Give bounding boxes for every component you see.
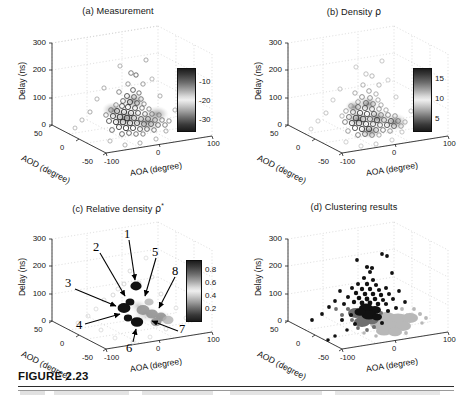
leader-2 bbox=[100, 253, 125, 296]
panel-b-ytick-300: 300 bbox=[262, 38, 282, 47]
panel-b-colorbar-tick-1: 15 bbox=[435, 74, 444, 83]
panel-c-colorbar-tick-1: 0.8 bbox=[205, 265, 216, 274]
panel-b-aodtick-neg50: -50 bbox=[318, 157, 329, 166]
panel-d-aodtick-50: 50 bbox=[270, 325, 278, 334]
panel-a-aoatick-100: 100 bbox=[207, 139, 220, 148]
cluster-annotation-1: 1 bbox=[124, 227, 130, 242]
panel-a-aodtick-50: 50 bbox=[34, 129, 42, 138]
leader-3 bbox=[75, 289, 116, 306]
cluster-annotation-5: 5 bbox=[152, 245, 158, 260]
panel-d-ytick-300: 300 bbox=[262, 234, 282, 243]
panel-b-ytick-200: 200 bbox=[262, 65, 282, 74]
panel-a-ytick-100: 100 bbox=[26, 93, 46, 102]
panel-b-aoatick-neg100: -100 bbox=[340, 157, 355, 166]
panel-a-axes: Delay (ns) 300 200 100 0 50 0 -50 AOD (d… bbox=[0, 0, 236, 196]
caption-text-cutoff bbox=[20, 391, 440, 395]
panel-d-aoatick-neg100: -100 bbox=[340, 353, 355, 362]
panel-d-axes: Delay (ns) 300 200 100 0 50 0 -50 AOD (d… bbox=[236, 196, 472, 392]
caption-rule-thick bbox=[18, 386, 454, 387]
panel-a-ytick-0: 0 bbox=[26, 120, 46, 129]
panel-c-colorbar-gradient bbox=[186, 260, 202, 322]
panel-c-colorbar: 0.8 0.6 0.4 0.2 bbox=[186, 260, 236, 322]
panel-a-ytick-200: 200 bbox=[26, 65, 46, 74]
figure-caption-label: FIGURE 2.23 bbox=[18, 370, 89, 382]
panel-a-colorbar-gradient bbox=[177, 68, 196, 132]
cluster-annotation-6: 6 bbox=[126, 341, 132, 356]
panel-c-aodtick-neg50: -50 bbox=[82, 353, 93, 362]
leader-6 bbox=[133, 329, 136, 342]
cluster-annotation-3: 3 bbox=[65, 276, 71, 291]
panel-a-ytick-300: 300 bbox=[26, 38, 46, 47]
cluster-annotation-2: 2 bbox=[93, 240, 99, 255]
cluster-core-4 bbox=[124, 315, 132, 322]
panel-a-colorbar-tick-1: -10 bbox=[199, 77, 211, 86]
panel-c-ytick-100: 100 bbox=[26, 289, 46, 298]
panel-b-y-axis-title: Delay (ns) bbox=[253, 51, 263, 111]
panel-b-aoatick-0: 0 bbox=[392, 148, 396, 157]
caption-rule-thin bbox=[18, 390, 454, 391]
panel-d-aoatick-0: 0 bbox=[392, 344, 396, 353]
panel-a-colorbar: -10 -20 -30 bbox=[177, 68, 231, 132]
panel-b-aodtick-50: 50 bbox=[270, 129, 278, 138]
panel-a-colorbar-tick-3: -30 bbox=[199, 115, 211, 124]
cluster-core-6 bbox=[131, 317, 143, 327]
panel-d-ytick-200: 200 bbox=[262, 261, 282, 270]
figure-page: (a) Measurement bbox=[0, 0, 472, 395]
panel-d-ytick-0: 0 bbox=[262, 316, 282, 325]
cluster-annotation-8: 8 bbox=[172, 264, 178, 279]
panel-c-aoatick-neg100: -100 bbox=[104, 353, 119, 362]
panel-b-aoatick-100: 100 bbox=[443, 139, 456, 148]
leader-1 bbox=[129, 240, 135, 280]
panel-b-colorbar-tick-3: 5 bbox=[435, 114, 439, 123]
panel-b-ytick-100: 100 bbox=[262, 93, 282, 102]
panel-c-colorbar-tick-4: 0.2 bbox=[205, 304, 216, 313]
panel-c-axes: Delay (ns) 300 200 100 0 50 0 -50 AOD (d… bbox=[0, 196, 236, 392]
panel-b-axes: Delay (ns) 300 200 100 0 50 0 -50 AOD (d… bbox=[236, 0, 472, 196]
panel-d-clustering-results: (d) Clustering results bbox=[236, 196, 472, 392]
panel-c-colorbar-tick-2: 0.6 bbox=[205, 278, 216, 287]
panel-d-aoatick-100: 100 bbox=[443, 335, 456, 344]
panel-b-colorbar: 15 10 5 bbox=[413, 68, 467, 132]
panel-a-colorbar-tick-2: -20 bbox=[199, 96, 211, 105]
panel-b-density: (b) Density ρ bbox=[236, 0, 472, 196]
panel-a-measurement: (a) Measurement bbox=[0, 0, 236, 196]
cluster-core-2 bbox=[126, 298, 135, 305]
panel-b-colorbar-gradient bbox=[413, 68, 432, 132]
panel-c-ytick-0: 0 bbox=[26, 316, 46, 325]
panel-d-aodtick-neg50: -50 bbox=[318, 353, 329, 362]
panel-c-aodtick-50: 50 bbox=[34, 325, 42, 334]
panel-c-relative-density: (c) Relative density ρ* bbox=[0, 196, 236, 392]
panel-c-ytick-300: 300 bbox=[26, 234, 46, 243]
panel-d-y-axis-title: Delay (ns) bbox=[253, 247, 263, 307]
panel-c-ytick-200: 200 bbox=[26, 261, 46, 270]
panel-c-y-axis-title: Delay (ns) bbox=[17, 247, 27, 307]
panel-c-aodtick-0: 0 bbox=[60, 339, 64, 348]
panel-a-aodtick-neg50: -50 bbox=[82, 157, 93, 166]
panel-d-ytick-100: 100 bbox=[262, 289, 282, 298]
cluster-annotation-4: 4 bbox=[76, 318, 82, 333]
panel-a-aodtick-0: 0 bbox=[60, 143, 64, 152]
panel-a-aoatick-0: 0 bbox=[156, 148, 160, 157]
cluster-core-1 bbox=[130, 282, 141, 291]
panel-c-aoatick-100: 100 bbox=[207, 335, 220, 344]
panel-b-ytick-0: 0 bbox=[262, 120, 282, 129]
panel-d-aodtick-0: 0 bbox=[296, 339, 300, 348]
panel-a-y-axis-title: Delay (ns) bbox=[17, 51, 27, 111]
panel-b-aodtick-0: 0 bbox=[296, 143, 300, 152]
cluster-annotation-7: 7 bbox=[179, 322, 185, 337]
panel-a-aoatick-neg100: -100 bbox=[104, 157, 119, 166]
panel-c-aoatick-0: 0 bbox=[156, 344, 160, 353]
panel-b-colorbar-tick-2: 10 bbox=[435, 94, 444, 103]
panel-c-colorbar-tick-3: 0.4 bbox=[205, 291, 216, 300]
